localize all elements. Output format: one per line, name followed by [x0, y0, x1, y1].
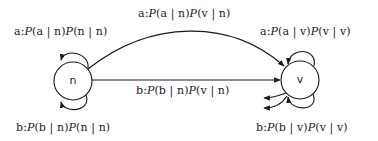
node-n-label: n	[54, 62, 92, 100]
edge-n-to-v-arc	[88, 31, 284, 69]
node-v-label: v	[281, 61, 319, 99]
label-n-to-v-a: a:P(a | n)P(v | n)	[138, 7, 230, 20]
label-v-self-b: b:P(b | v)P(v | v)	[256, 121, 348, 134]
label-n-self-a: a:P(a | n)P(n | n)	[14, 25, 107, 38]
label-v-self-a: a:P(a | v)P(v | v)	[260, 25, 351, 38]
state-diagram: n v a:P(a | n)P(n | n) a:P(a | n)P(v | n…	[0, 0, 378, 141]
label-n-self-b: b:P(b | n)P(n | n)	[16, 121, 110, 134]
label-n-to-v-b: b:P(b | n)P(v | n)	[136, 84, 229, 97]
